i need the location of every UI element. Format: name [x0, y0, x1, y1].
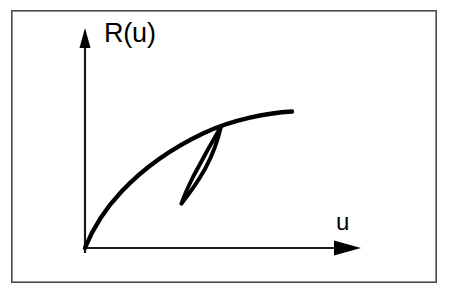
- x-axis-label: u: [336, 210, 349, 234]
- figure-background: [0, 0, 453, 295]
- figure-root: R(u) u: [0, 0, 453, 295]
- y-axis-label: R(u): [104, 20, 156, 47]
- figure-canvas: [0, 0, 453, 295]
